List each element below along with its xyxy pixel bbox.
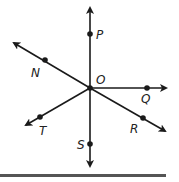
point-o xyxy=(87,85,93,91)
point-p xyxy=(87,31,93,37)
point-r xyxy=(140,115,146,121)
rays-diagram: O P N Q R S T xyxy=(0,0,179,182)
point-s xyxy=(87,141,93,147)
label-p: P xyxy=(96,28,104,42)
point-q xyxy=(144,85,150,91)
point-n xyxy=(42,57,48,63)
label-o: O xyxy=(96,73,105,87)
ray-ot xyxy=(26,88,90,125)
point-t xyxy=(37,114,43,120)
bottom-rule xyxy=(0,174,166,177)
label-q: Q xyxy=(141,92,150,106)
label-n: N xyxy=(31,66,40,80)
label-t: T xyxy=(39,124,48,138)
ray-or xyxy=(90,88,165,131)
label-s: S xyxy=(77,138,85,152)
label-r: R xyxy=(130,122,138,136)
ray-on xyxy=(14,43,90,88)
